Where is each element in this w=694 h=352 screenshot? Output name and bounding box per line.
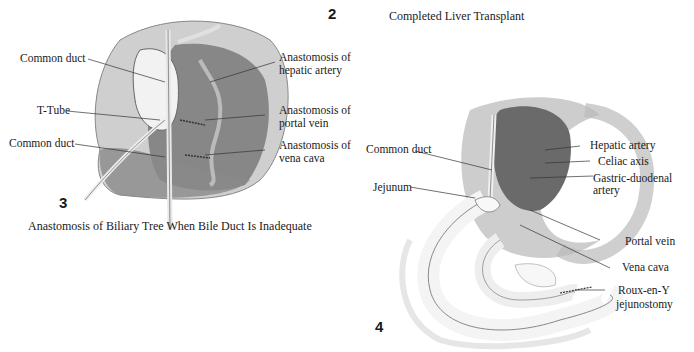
label-common-duct-bottom: Common duct [9, 137, 75, 149]
figure-4-illustration [402, 97, 647, 346]
label-common-duct: Common duct [366, 143, 432, 155]
label-vena-cava: Vena cava [622, 261, 669, 273]
label-anastomosis-hepatic-artery-1: Anastomosis of [279, 51, 351, 63]
label-gastric-duodenal-1: Gastric-duodenal [593, 172, 672, 184]
label-common-duct-top: Common duct [20, 52, 86, 64]
figure-4-number: 4 [375, 318, 383, 335]
label-roux-en-y-2: jejunostomy [616, 298, 673, 310]
label-anastomosis-hepatic-artery-2: hepatic artery [279, 64, 342, 76]
figure-2-caption: Completed Liver Transplant [389, 9, 524, 24]
figure-3-number: 3 [59, 194, 67, 211]
label-anastomosis-portal-vein-1: Anastomosis of [279, 104, 351, 116]
label-anastomosis-vena-cava-1: Anastomosis of [279, 139, 351, 151]
label-anastomosis-vena-cava-2: vena cava [279, 152, 325, 164]
label-t-tube: T-Tube [37, 104, 70, 116]
label-gastric-duodenal-2: artery [593, 184, 620, 196]
label-jejunum: Jejunum [373, 181, 412, 193]
label-celiac-axis: Celiac axis [598, 155, 649, 167]
label-roux-en-y-1: Roux-en-Y [618, 284, 670, 296]
label-anastomosis-portal-vein-2: portal vein [279, 117, 329, 129]
figure-3-caption: Anastomosis of Biliary Tree When Bile Du… [28, 219, 312, 234]
figure-2-number: 2 [328, 5, 336, 22]
label-portal-vein: Portal vein [625, 235, 675, 247]
label-hepatic-artery: Hepatic artery [590, 139, 655, 151]
figure-3-illustration [85, 21, 288, 230]
